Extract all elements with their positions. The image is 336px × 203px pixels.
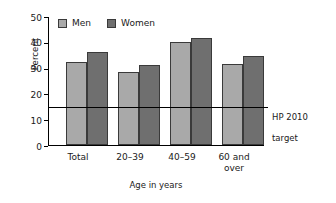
y-axis-line <box>48 17 49 146</box>
bar-60-over-men <box>222 64 243 145</box>
legend-swatch-women-icon <box>107 19 116 28</box>
legend-item-women: Women <box>107 18 155 28</box>
x-axis-line <box>48 145 264 146</box>
bar-40-59-women <box>191 38 212 145</box>
bar-20-39-women <box>139 65 160 145</box>
y-tick-label: 30 <box>31 64 42 74</box>
y-tick-label: 0 <box>36 142 42 152</box>
x-category-total: Total <box>48 152 108 163</box>
y-tick-mark <box>44 146 48 147</box>
y-tick-label: 40 <box>31 38 42 48</box>
y-tick-0: 0 <box>48 146 49 147</box>
legend: Men Women <box>58 18 155 28</box>
hp-2010-target-label: HP 2010 target <box>272 101 308 143</box>
x-category-20-39: 20–39 <box>100 152 160 163</box>
y-tick-label: 20 <box>31 90 42 100</box>
hp-target-line1: HP 2010 <box>272 112 308 122</box>
hp-target-line2: target <box>272 133 298 143</box>
bar-total-women <box>87 52 108 145</box>
bar-40-59-men <box>170 42 191 145</box>
plot-area <box>48 17 264 146</box>
legend-label-men: Men <box>72 18 91 28</box>
x-category-60-over-line2: over <box>224 163 244 173</box>
legend-item-men: Men <box>58 18 91 28</box>
y-tick-label: 10 <box>31 116 42 126</box>
hp-2010-target-line <box>48 107 268 108</box>
x-axis-title: Age in years <box>48 180 264 190</box>
x-category-40-59: 40–59 <box>152 152 212 163</box>
bar-total-men <box>66 62 87 145</box>
bar-chart: Percent 50 40 30 20 10 0 <box>0 0 336 203</box>
x-category-60-over: 60 and over <box>204 152 264 174</box>
y-tick-label: 50 <box>31 13 42 23</box>
y-axis-title: Percent <box>30 19 44 89</box>
legend-label-women: Women <box>121 18 155 28</box>
bar-60-over-women <box>243 56 264 145</box>
x-category-60-over-line1: 60 and <box>218 152 249 162</box>
legend-swatch-men-icon <box>58 19 67 28</box>
